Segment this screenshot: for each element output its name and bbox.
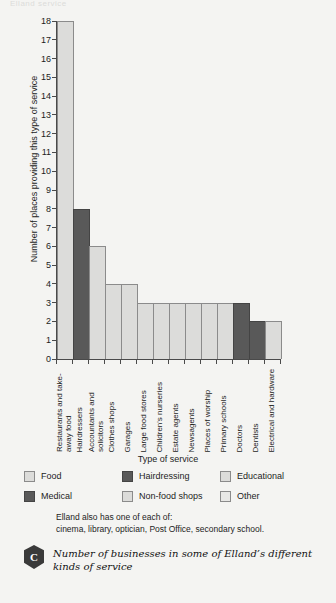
y-tick-4: 4 bbox=[0, 279, 56, 289]
x-category-label: Primary schools bbox=[220, 395, 229, 452]
x-category: Large food stores bbox=[136, 366, 152, 452]
x-category: Estate agents bbox=[168, 366, 184, 452]
x-category-label: Places of worship bbox=[204, 368, 213, 452]
figure-page: Elland service Number of places providin… bbox=[0, 0, 336, 603]
x-tick-mark bbox=[88, 359, 104, 364]
y-tick-12: 12 bbox=[0, 129, 56, 139]
x-category-label: Newsagents bbox=[188, 408, 197, 452]
y-tick-6: 6 bbox=[0, 241, 56, 251]
bar bbox=[217, 303, 234, 359]
y-tick-10: 10 bbox=[0, 166, 56, 176]
x-tick-mark bbox=[264, 359, 280, 364]
x-tick-mark bbox=[216, 359, 232, 364]
y-tick-3: 3 bbox=[0, 298, 56, 308]
caption-text: Number of businesses in some of Elland’s… bbox=[53, 546, 324, 573]
x-tick-mark bbox=[152, 359, 168, 364]
note-line-2: cinema, library, optician, Post Office, … bbox=[56, 524, 316, 536]
x-tick-mark bbox=[168, 359, 184, 364]
legend-label: Other bbox=[237, 491, 260, 501]
x-category-label: Accountants and solicitors bbox=[88, 368, 105, 452]
x-category: Restaurants and take-away food bbox=[56, 366, 72, 452]
x-category-label: Estate agents bbox=[172, 403, 181, 452]
x-tick-mark bbox=[56, 359, 72, 364]
y-tick-15: 15 bbox=[0, 72, 56, 82]
legend-label: Non-food shops bbox=[139, 491, 203, 501]
bar-chart: Number of places providing this type of … bbox=[0, 14, 336, 454]
x-category-label: Electrical and hardware bbox=[268, 368, 277, 452]
y-tick-11: 11 bbox=[0, 147, 56, 157]
x-category-label: Clothes shops bbox=[108, 401, 117, 452]
legend-swatch-icon bbox=[220, 491, 231, 502]
legend-swatch-icon bbox=[24, 491, 35, 502]
y-tick-5: 5 bbox=[0, 260, 56, 270]
x-category-label: Hairdressers bbox=[76, 407, 85, 452]
bar bbox=[89, 246, 106, 359]
x-category-label: Dentists bbox=[252, 423, 261, 452]
legend-swatch-icon bbox=[24, 471, 35, 482]
legend-label: Medical bbox=[41, 491, 72, 501]
x-tick-mark bbox=[232, 359, 248, 364]
note-line-1: Elland also has one of each of: bbox=[56, 512, 316, 524]
y-tick-14: 14 bbox=[0, 91, 56, 101]
y-axis-tick-labels: 1817161514131211109876543210 bbox=[0, 14, 56, 359]
caption-badge-icon: C bbox=[24, 545, 44, 569]
bar bbox=[121, 284, 138, 359]
bar bbox=[201, 303, 218, 359]
bar-series bbox=[57, 21, 281, 359]
chart-legend: FoodHairdressingEducationalMedicalNon-fo… bbox=[24, 466, 314, 506]
bar bbox=[249, 321, 266, 359]
x-category: Primary schools bbox=[216, 366, 232, 452]
cropped-top-text: Elland service bbox=[10, 0, 130, 8]
legend-item: Educational bbox=[220, 466, 314, 486]
x-category: Doctors bbox=[232, 366, 248, 452]
x-category-label: Doctors bbox=[236, 424, 245, 452]
x-tick-mark bbox=[200, 359, 216, 364]
x-axis-title: Type of service bbox=[0, 454, 336, 464]
legend-item: Medical bbox=[24, 486, 118, 506]
x-tick-mark bbox=[104, 359, 120, 364]
bar bbox=[137, 303, 154, 359]
y-tick-2: 2 bbox=[0, 316, 56, 326]
legend-label: Hairdressing bbox=[139, 471, 190, 481]
x-category-label: Garages bbox=[124, 421, 133, 452]
x-category: Newsagents bbox=[184, 366, 200, 452]
y-tick-8: 8 bbox=[0, 204, 56, 214]
x-tick-mark bbox=[72, 359, 88, 364]
plot-area bbox=[56, 21, 281, 360]
bar bbox=[57, 21, 74, 359]
bar bbox=[169, 303, 186, 359]
legend-label: Educational bbox=[237, 471, 284, 481]
y-tick-16: 16 bbox=[0, 54, 56, 64]
legend-item: Food bbox=[24, 466, 118, 486]
y-tick-7: 7 bbox=[0, 223, 56, 233]
legend-swatch-icon bbox=[122, 491, 133, 502]
x-category: Electrical and hardware bbox=[264, 366, 280, 452]
legend-label: Food bbox=[41, 471, 62, 481]
x-category-label: Children's nurseries bbox=[156, 368, 165, 452]
x-axis-tick-marks bbox=[56, 359, 280, 364]
x-tick-mark bbox=[248, 359, 264, 364]
y-tick-1: 1 bbox=[0, 335, 56, 345]
x-category-label: Large food stores bbox=[140, 368, 149, 452]
bar bbox=[105, 284, 122, 359]
legend-swatch-icon bbox=[220, 471, 231, 482]
supplementary-note: Elland also has one of each of: cinema, … bbox=[56, 512, 316, 535]
bar bbox=[233, 303, 250, 359]
legend-item: Non-food shops bbox=[122, 486, 216, 506]
x-category-label: Restaurants and take-away food bbox=[56, 368, 73, 452]
bar bbox=[185, 303, 202, 359]
y-tick-9: 9 bbox=[0, 185, 56, 195]
figure-caption: C Number of businesses in some of Elland… bbox=[24, 546, 324, 573]
legend-swatch-icon bbox=[122, 471, 133, 482]
legend-item: Other bbox=[220, 486, 314, 506]
x-category: Places of worship bbox=[200, 366, 216, 452]
x-category: Children's nurseries bbox=[152, 366, 168, 452]
bar bbox=[73, 209, 90, 359]
bar bbox=[265, 321, 282, 359]
x-tick-mark bbox=[120, 359, 136, 364]
y-tick-0: 0 bbox=[0, 354, 56, 364]
y-tick-13: 13 bbox=[0, 110, 56, 120]
caption-badge-letter: C bbox=[24, 545, 44, 569]
y-tick-18: 18 bbox=[0, 16, 56, 26]
bar bbox=[153, 303, 170, 359]
